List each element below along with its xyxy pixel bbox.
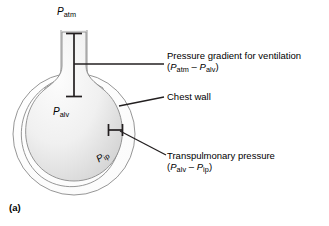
callout-pressure-gradient-title: Pressure gradient for ventilation (167, 50, 301, 61)
label-p-atm-subscript: atm (64, 10, 76, 19)
callout-transpulmonary-formula: (Palv – Pip) (167, 161, 275, 174)
formula-subscript-b: alv (206, 65, 216, 74)
formula-close-paren: ) (216, 61, 219, 72)
callout-pressure-gradient-formula: (Patm – Palv) (167, 61, 301, 74)
label-p-atm-symbol: P (57, 6, 64, 17)
formula-operator: – (186, 161, 197, 172)
callout-chest-wall: Chest wall (167, 91, 211, 102)
label-p-alv-symbol: P (53, 106, 60, 117)
label-p-alv: Palv (53, 106, 69, 119)
formula-subscript-a: atm (177, 65, 189, 74)
callout-chest-wall-title: Chest wall (167, 91, 211, 102)
formula-close-paren: ) (209, 161, 212, 172)
diagram-canvas (0, 0, 329, 226)
callout-transpulmonary-pressure: Transpulmonary pressure (Palv – Pip) (167, 150, 275, 174)
callout-pressure-gradient: Pressure gradient for ventilation (Patm … (167, 50, 301, 74)
callout-transpulmonary-title: Transpulmonary pressure (167, 150, 275, 161)
label-p-alv-subscript: alv (60, 110, 70, 119)
label-p-atm: Patm (57, 6, 76, 19)
respiratory-pressure-diagram: Patm Palv Pip Pressure gradient for vent… (0, 0, 329, 226)
panel-letter: (a) (9, 202, 21, 213)
formula-subscript-a: alv (177, 165, 187, 174)
formula-operator: – (189, 61, 200, 72)
